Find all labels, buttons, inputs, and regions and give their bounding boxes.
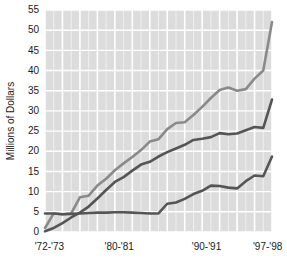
y-tick-label: 0 xyxy=(33,226,39,237)
y-axis-label-text: Millions of Dollars xyxy=(5,82,16,160)
y-tick-label: 55 xyxy=(28,4,40,15)
y-tick-label: 10 xyxy=(28,186,40,197)
line-chart: 0510152025303540455055 '72-'73'80-'81'90… xyxy=(0,0,287,264)
y-tick-label: 25 xyxy=(28,125,40,136)
x-tick-label: '80-'81 xyxy=(105,241,135,252)
y-tick-label: 5 xyxy=(33,206,39,217)
chart-container: 0510152025303540455055 '72-'73'80-'81'90… xyxy=(0,0,287,264)
x-tick-label: '90-'91 xyxy=(192,241,222,252)
y-tick-label: 20 xyxy=(28,145,40,156)
y-tick-label: 30 xyxy=(28,105,40,116)
y-tick-label: 50 xyxy=(28,24,40,35)
y-axis-title: Millions of Dollars xyxy=(5,82,16,160)
y-tick-label: 40 xyxy=(28,65,40,76)
x-tick-label: '72-'73 xyxy=(35,241,65,252)
x-tick-label: '97-'98 xyxy=(253,241,283,252)
y-tick-label: 35 xyxy=(28,85,40,96)
y-tick-label: 45 xyxy=(28,45,40,56)
y-tick-label: 15 xyxy=(28,166,40,177)
